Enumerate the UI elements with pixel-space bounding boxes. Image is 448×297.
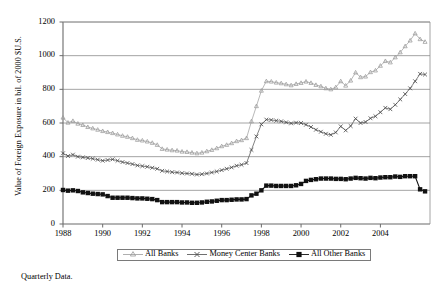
data-point-marker: [289, 184, 293, 188]
data-point-marker: [100, 192, 104, 196]
data-point-marker: [81, 190, 85, 194]
data-series-0: [61, 31, 427, 154]
legend-label-all-banks: All Banks: [145, 250, 178, 258]
data-point-marker: [86, 191, 90, 195]
data-point-marker: [348, 176, 352, 180]
data-point-marker: [294, 183, 298, 187]
data-point-marker: [244, 197, 248, 201]
legend-label-money-center-banks: Money Center Banks: [209, 250, 280, 258]
data-point-marker: [120, 196, 124, 200]
data-point-marker: [234, 197, 238, 201]
legend-item-all-banks: All Banks: [123, 250, 178, 259]
x-tick-label: 1988: [43, 230, 83, 238]
data-point-marker: [373, 176, 377, 180]
data-point-marker: [71, 188, 75, 192]
y-tick-label: 400: [23, 152, 55, 160]
data-point-marker: [175, 200, 179, 204]
data-point-marker: [190, 201, 194, 205]
data-point-marker: [343, 177, 347, 181]
data-point-marker: [279, 184, 283, 188]
data-point-marker: [358, 176, 362, 180]
data-point-marker: [324, 176, 328, 180]
data-point-marker: [210, 199, 214, 203]
data-series-layer: [61, 31, 427, 205]
data-point-marker: [130, 196, 134, 200]
x-tick-label: 1994: [162, 230, 202, 238]
y-tick-label: 800: [23, 85, 55, 93]
data-point-marker: [393, 174, 397, 178]
axis-lines: [60, 22, 431, 228]
data-point-marker: [403, 174, 407, 178]
data-point-marker: [66, 188, 70, 192]
chart-footnote: Quarterly Data.: [21, 273, 73, 281]
data-point-marker: [76, 189, 80, 193]
data-point-marker: [215, 199, 219, 203]
legend-marker-square-icon: [289, 250, 309, 259]
x-tick-label: 2002: [321, 230, 361, 238]
data-point-marker: [150, 197, 154, 201]
legend-marker-cross-icon: [187, 250, 207, 259]
data-point-marker: [378, 175, 382, 179]
data-point-marker: [269, 183, 273, 187]
legend-label-all-other-banks: All Other Banks: [311, 250, 365, 258]
data-point-marker: [259, 188, 263, 192]
x-tick-label: 1992: [122, 230, 162, 238]
data-point-marker: [383, 175, 387, 179]
data-point-marker: [299, 182, 303, 186]
data-point-marker: [418, 187, 422, 191]
data-point-marker: [110, 196, 114, 200]
data-point-marker: [319, 176, 323, 180]
series-line: [63, 33, 425, 153]
data-point-marker: [353, 176, 357, 180]
data-point-marker: [274, 184, 278, 188]
data-point-marker: [105, 194, 109, 198]
data-point-marker: [115, 196, 119, 200]
data-point-marker: [388, 175, 392, 179]
y-tick-label: 1000: [23, 51, 55, 59]
data-point-marker: [334, 177, 338, 181]
data-point-marker: [249, 193, 253, 197]
x-tick-label: 2000: [281, 230, 321, 238]
data-point-marker: [96, 192, 100, 196]
data-point-marker: [408, 174, 412, 178]
data-point-marker: [224, 198, 228, 202]
data-point-marker: [368, 176, 372, 180]
data-point-marker: [205, 200, 209, 204]
data-point-marker: [135, 196, 139, 200]
data-point-marker: [413, 174, 417, 178]
data-point-marker: [309, 178, 313, 182]
data-point-marker: [363, 176, 367, 180]
x-tick-label: 2004: [360, 230, 400, 238]
data-point-marker: [185, 200, 189, 204]
legend-item-all-other-banks: All Other Banks: [289, 250, 365, 259]
data-point-marker: [254, 192, 258, 196]
data-point-marker: [61, 188, 65, 192]
y-axis-label: Value of Foreign Exposure in bil. of 200…: [15, 11, 23, 221]
y-tick-label: 0: [23, 220, 55, 228]
data-point-marker: [145, 197, 149, 201]
x-tick-label: 1998: [241, 230, 281, 238]
data-point-marker: [239, 197, 243, 201]
data-series-1: [61, 72, 427, 176]
data-point-marker: [195, 201, 199, 205]
data-point-marker: [160, 200, 164, 204]
data-point-marker: [91, 192, 95, 196]
data-point-marker: [229, 198, 233, 202]
data-point-marker: [398, 175, 402, 179]
data-point-marker: [220, 198, 224, 202]
data-point-marker: [170, 200, 174, 204]
data-point-marker: [329, 176, 333, 180]
data-point-marker: [125, 196, 129, 200]
y-tick-label: 200: [23, 186, 55, 194]
x-tick-label: 1996: [202, 230, 242, 238]
data-point-marker: [284, 184, 288, 188]
data-series-2: [61, 174, 427, 205]
chart-figure: Value of Foreign Exposure in bil. of 200…: [0, 0, 448, 297]
chart-legend: All Banks Money Center Banks All Other B…: [117, 249, 371, 261]
legend-item-money-center-banks: Money Center Banks: [187, 250, 280, 259]
data-point-marker: [180, 200, 184, 204]
data-point-marker: [304, 179, 308, 183]
data-point-marker: [200, 200, 204, 204]
y-tick-label: 1200: [23, 18, 55, 26]
data-point-marker: [423, 189, 427, 193]
